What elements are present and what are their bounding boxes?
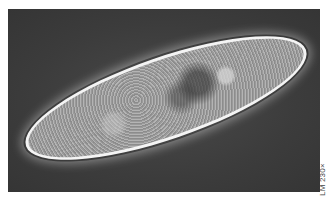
micrograph-photo [8, 9, 320, 192]
magnification-caption: LM 230× [318, 163, 327, 196]
paramecium-cell [13, 11, 320, 185]
